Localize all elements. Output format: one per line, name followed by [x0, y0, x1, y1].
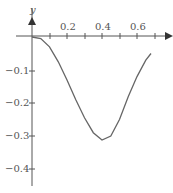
x-tick-label: 0.6 — [130, 21, 146, 32]
y-tick-label: −0.4 — [5, 163, 29, 174]
y-axis-label: y — [29, 4, 36, 15]
y-tick-label: −0.2 — [5, 97, 29, 108]
data-curve — [32, 37, 151, 140]
y-tick-label: −0.1 — [5, 65, 29, 76]
x-axis-arrow-icon — [165, 32, 173, 40]
chart-plot: y 0.2 0.4 0.6 −0.1 −0.2 −0.3 −0.4 — [0, 0, 173, 193]
chart: y 0.2 0.4 0.6 −0.1 −0.2 −0.3 −0.4 — [0, 0, 173, 193]
y-axis-arrow-icon — [28, 17, 36, 25]
y-tick-label: −0.3 — [5, 130, 29, 141]
x-tick-label: 0.4 — [95, 21, 111, 32]
x-tick-label: 0.2 — [60, 21, 76, 32]
